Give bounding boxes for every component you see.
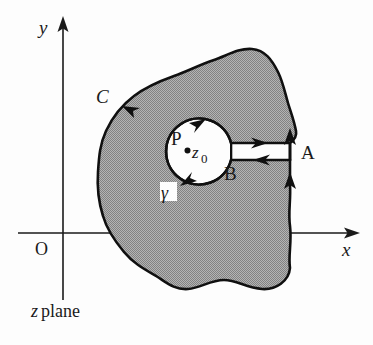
caption-z: z bbox=[30, 301, 38, 321]
point-label-P: P bbox=[171, 128, 182, 149]
origin-label: O bbox=[35, 239, 48, 259]
caption-plane: plane bbox=[41, 301, 80, 321]
cut-label-B: B bbox=[224, 163, 237, 184]
figure-container: y x O C γ P z 0 A B z plane bbox=[0, 0, 373, 345]
x-axis-label: x bbox=[341, 239, 351, 260]
y-axis-label: y bbox=[37, 17, 48, 38]
outer-contour-label-C: C bbox=[96, 86, 109, 107]
inner-contour-label-gamma: γ bbox=[161, 183, 169, 203]
complex-plane-diagram: y x O C γ P z 0 A B z plane bbox=[0, 0, 373, 345]
point-label-z-subscript: 0 bbox=[201, 151, 208, 166]
point-z0-dot bbox=[185, 148, 191, 154]
figure-caption: z plane bbox=[30, 301, 80, 321]
cut-label-A: A bbox=[301, 142, 315, 163]
point-label-z: z bbox=[191, 143, 199, 162]
